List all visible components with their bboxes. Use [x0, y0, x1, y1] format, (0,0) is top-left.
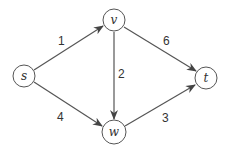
edge-v-w: 2 [114, 32, 125, 119]
edge-weight-v-t: 6 [163, 34, 170, 48]
edge-w-t: 3 [125, 85, 195, 126]
edge-s-w: 4 [34, 82, 102, 126]
edge-weight-s-v: 1 [58, 34, 65, 48]
edge-weight-w-t: 3 [162, 111, 169, 125]
node-label-t: t [204, 71, 209, 85]
node-label-s: s [21, 69, 27, 83]
node-w: w [102, 120, 126, 144]
node-label-w: w [109, 125, 120, 139]
node-v: v [103, 9, 125, 31]
directed-graph: 1 4 2 6 3 s v w t [0, 0, 226, 154]
node-t: t [195, 67, 217, 89]
node-label-v: v [111, 13, 118, 27]
edge-weight-s-w: 4 [57, 110, 64, 124]
node-s: s [13, 65, 35, 87]
edge-s-v: 1 [34, 26, 103, 70]
edge-v-t: 6 [124, 27, 196, 71]
edge-weight-v-w: 2 [118, 67, 125, 81]
